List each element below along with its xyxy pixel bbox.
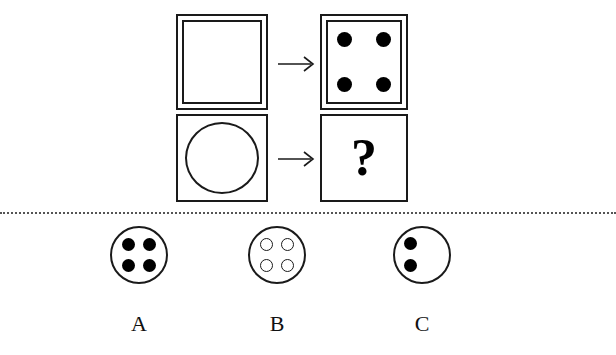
matrix-cell-bottom-right: ? <box>320 114 408 202</box>
circle-outline <box>185 122 259 194</box>
dot-upper-left <box>404 237 417 250</box>
matrix-cell-bottom-left <box>176 114 268 202</box>
option-b-label: B <box>217 312 337 336</box>
cell-inner <box>178 116 266 200</box>
arrow-right-icon-bottom <box>277 149 319 169</box>
dotted-divider <box>0 212 616 214</box>
dot-top-right <box>143 238 156 251</box>
arrow-right-icon-top <box>277 54 319 74</box>
option-c-circle <box>393 226 451 284</box>
dot-bottom-right <box>376 77 391 92</box>
answer-option-c[interactable]: C <box>362 226 482 336</box>
dot-bottom-left <box>122 259 135 272</box>
dot-top-right <box>281 238 294 251</box>
dot-lower-left <box>404 259 417 272</box>
dot-top-left <box>260 238 273 251</box>
dot-bottom-right <box>281 259 294 272</box>
option-a-circle <box>110 226 168 284</box>
dot-bottom-left <box>260 259 273 272</box>
dot-top-left <box>122 238 135 251</box>
matrix-cell-top-right <box>320 14 408 110</box>
double-border-inner-frame <box>326 20 402 104</box>
dot-top-left <box>337 32 352 47</box>
dot-bottom-right <box>143 259 156 272</box>
dot-bottom-left <box>337 77 352 92</box>
option-c-label: C <box>362 312 482 336</box>
dot-top-right <box>376 32 391 47</box>
option-b-circle <box>248 226 306 284</box>
option-a-label: A <box>79 312 199 336</box>
matrix-cell-top-left <box>176 14 268 110</box>
answer-option-b[interactable]: B <box>217 226 337 336</box>
puzzle-canvas: ? A B C <box>0 0 616 355</box>
cell-inner: ? <box>322 116 406 200</box>
double-border-inner-frame <box>182 20 262 104</box>
question-mark: ? <box>322 132 406 184</box>
answer-option-a[interactable]: A <box>79 226 199 336</box>
